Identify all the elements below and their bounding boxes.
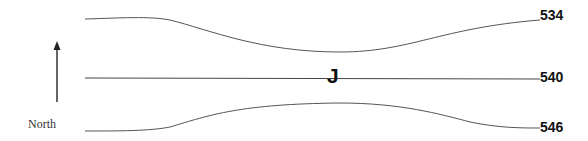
north-label: North [28,118,56,130]
contour-label-546: 546 [540,120,563,134]
contour-line-540 [85,78,540,79]
contour-line-546 [85,103,540,131]
contour-diagram [0,0,588,141]
contour-label-540: 540 [540,70,563,84]
point-label-j: J [327,65,339,86]
north-arrow-icon [54,41,61,102]
contour-line-534 [85,18,540,52]
contour-label-534: 534 [540,8,563,22]
